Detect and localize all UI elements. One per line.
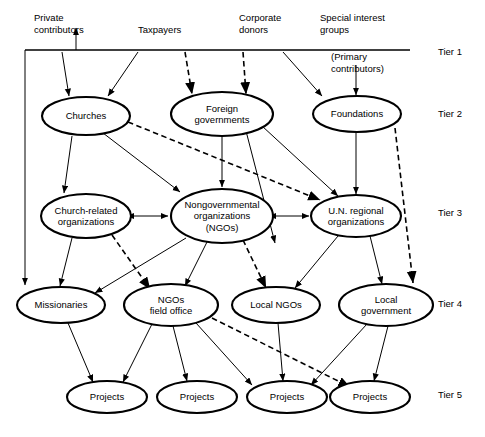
node-label-church-related-organizations: organizations: [58, 216, 115, 227]
tier-label-tier1: Tier 1: [438, 46, 462, 57]
edge-ngos-to-local-ngos: [243, 240, 266, 288]
node-label-nongovernmental-organizations: (NGOs): [206, 222, 239, 233]
tier-label-group: Tier 1Tier 2Tier 3Tier 4Tier 5: [438, 46, 462, 400]
free-label-group: PrivatecontributorsTaxpayersCorporatedon…: [34, 12, 385, 74]
node-label-nongovernmental-organizations: Nongovernmental: [185, 199, 260, 210]
node-label-local-ngos: Local NGOs: [250, 299, 302, 310]
node-foreign-governments[interactable]: Foreigngovernments: [171, 92, 273, 136]
edge-un-to-local-government: [370, 236, 382, 284]
node-ngos-field-office[interactable]: NGOsfield office: [124, 284, 218, 326]
edge-corporate-to-foundations: [283, 52, 322, 96]
node-label-projects-2: Projects: [180, 391, 215, 402]
node-label-foundations: Foundations: [331, 108, 384, 119]
diagram-canvas: ChurchesForeigngovernmentsFoundationsChu…: [0, 0, 485, 437]
node-local-government[interactable]: Localgovernment: [339, 284, 433, 326]
edge-ngos-field-to-projects2: [173, 326, 187, 381]
node-label-un-regional-organizations: U.N. regional: [328, 205, 383, 216]
edge-foundations-to-local-government: [395, 128, 413, 283]
tier-label-tier2: Tier 2: [438, 108, 462, 119]
edge-taxpayers-to-churches: [108, 52, 138, 96]
node-label-ngos-field-office: field office: [150, 305, 193, 316]
node-un-regional-organizations[interactable]: U.N. regionalorganizations: [311, 195, 401, 237]
node-label-church-related-organizations: Church-related: [55, 205, 118, 216]
contributor-label-private-contributors: contributors: [34, 24, 84, 35]
primary-contributors-note: (Primary: [331, 51, 367, 62]
node-label-ngos-field-office: NGOs: [158, 294, 185, 305]
node-label-projects-1: Projects: [90, 391, 125, 402]
node-projects-1[interactable]: Projects: [67, 381, 147, 413]
contributor-label-special-interest-groups: Special interest: [320, 12, 385, 23]
contributor-label-corporate-donors: Corporate: [239, 12, 281, 23]
contributor-label-special-interest-groups: groups: [320, 24, 349, 35]
flow-diagram-root: ChurchesForeigngovernmentsFoundationsChu…: [0, 0, 485, 437]
node-projects-2[interactable]: Projects: [157, 381, 237, 413]
contributor-label-private-contributors: Private: [34, 12, 64, 23]
edge-local-government-to-projects4: [374, 326, 388, 381]
node-label-foreign-governments: Foreign: [206, 103, 238, 114]
node-label-churches: Churches: [66, 110, 107, 121]
node-label-local-government: Local: [375, 294, 398, 305]
tier-label-tier4: Tier 4: [438, 298, 462, 309]
tier-label-tier5: Tier 5: [438, 389, 462, 400]
edge-churches-to-ngos: [103, 133, 180, 192]
primary-contributors-note: contributors): [331, 63, 384, 74]
edge-missionaries-to-projects1: [68, 323, 93, 382]
node-projects-3[interactable]: Projects: [247, 381, 327, 413]
edge-churches-to-church-related: [64, 136, 72, 193]
contributor-label-corporate-donors: donors: [239, 24, 268, 35]
node-label-un-regional-organizations: organizations: [328, 216, 385, 227]
edge-ngos-field-to-projects1: [123, 324, 152, 382]
node-missionaries[interactable]: Missionaries: [17, 287, 105, 323]
edge-taxpayers-to-foreign: [185, 52, 192, 94]
node-church-related-organizations[interactable]: Church-relatedorganizations: [41, 194, 131, 238]
edge-ngos-to-ngos-field: [185, 242, 207, 286]
node-foundations[interactable]: Foundations: [313, 96, 401, 132]
node-local-ngos[interactable]: Local NGOs: [232, 287, 320, 323]
edge-church-related-to-missionaries: [60, 238, 72, 286]
node-label-local-government: government: [361, 305, 412, 316]
node-group: ChurchesForeigngovernmentsFoundationsChu…: [17, 92, 433, 413]
node-nongovernmental-organizations[interactable]: Nongovernmentalorganizations(NGOs): [171, 189, 273, 243]
edge-ngos-field-to-projects3: [196, 323, 252, 385]
node-label-missionaries: Missionaries: [35, 299, 88, 310]
node-label-foreign-governments: governments: [195, 114, 250, 125]
edge-foreign-to-un: [262, 126, 338, 196]
edge-local-government-to-projects3: [311, 324, 367, 385]
edge-church-related-to-ngos-field: [112, 235, 150, 289]
tier-label-tier3: Tier 3: [438, 207, 462, 218]
node-label-nongovernmental-organizations: organizations: [194, 210, 251, 221]
edge-private-to-churches: [62, 52, 69, 96]
edge-corporate-to-foreign: [243, 52, 246, 94]
edge-un-to-local-ngos: [295, 236, 338, 288]
node-label-projects-4: Projects: [353, 391, 388, 402]
node-label-projects-3: Projects: [270, 391, 305, 402]
contributor-label-taxpayers: Taxpayers: [138, 24, 182, 35]
node-projects-4[interactable]: Projects: [330, 381, 410, 413]
node-churches[interactable]: Churches: [42, 97, 130, 135]
